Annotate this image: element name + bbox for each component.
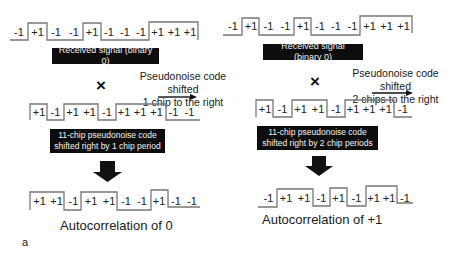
chip: +1: [381, 192, 397, 204]
chip: +1: [366, 192, 381, 204]
chip: -1: [313, 192, 330, 204]
chip: -1: [347, 192, 366, 204]
chip: +1: [295, 192, 313, 204]
chip: +1: [330, 192, 347, 204]
chip: +1: [277, 192, 295, 204]
right-result-waveform: [0, 0, 463, 262]
chip: -1: [397, 192, 413, 204]
chip: -1: [260, 192, 277, 204]
right-result-chips: -1 +1 +1 -1 +1 -1 +1 +1 -1: [260, 192, 413, 204]
right-result-label: Autocorrelation of +1: [262, 212, 382, 227]
